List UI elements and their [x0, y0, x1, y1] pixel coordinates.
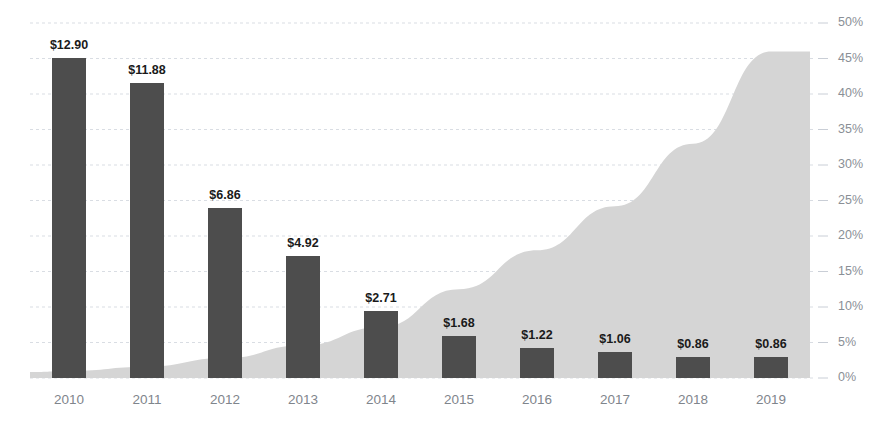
bar	[676, 357, 710, 378]
y-axis-tick-label: 40%	[838, 86, 863, 100]
y-axis-tick-label: 30%	[838, 157, 863, 171]
bar	[598, 352, 632, 378]
x-axis-tick-label: 2015	[444, 392, 474, 407]
chart-container: $12.90$11.88$6.86$4.92$2.71$1.68$1.22$1.…	[0, 0, 876, 436]
y-axis-tick-label: 35%	[838, 122, 863, 136]
y-axis-tick-label: 5%	[838, 335, 856, 349]
x-axis-tick-label: 2013	[288, 392, 318, 407]
bar-value-label: $0.86	[677, 337, 708, 351]
bar	[208, 208, 242, 378]
combo-chart: $12.90$11.88$6.86$4.92$2.71$1.68$1.22$1.…	[0, 0, 876, 436]
bar	[520, 348, 554, 378]
y-axis-tick-label: 10%	[838, 299, 863, 313]
bar-value-label: $1.06	[599, 332, 630, 346]
bar	[442, 336, 476, 378]
y-axis-tick-label: 50%	[838, 15, 863, 29]
y-axis-tick-label: 20%	[838, 228, 863, 242]
y-axis-tick-label: 45%	[838, 51, 863, 65]
bar	[364, 311, 398, 378]
bar	[130, 83, 164, 378]
y-axis-tick-label: 25%	[838, 193, 863, 207]
x-axis-tick-label: 2016	[522, 392, 552, 407]
x-axis-tick-label: 2018	[678, 392, 708, 407]
bar	[52, 58, 86, 378]
bar-value-label: $11.88	[128, 63, 166, 77]
right-axis-tick-labels-group: 0%5%10%15%20%25%30%35%40%45%50%	[838, 15, 863, 384]
bar-value-label: $12.90	[50, 38, 88, 52]
bar	[754, 357, 788, 378]
x-axis-tick-label: 2017	[600, 392, 630, 407]
y-axis-tick-label: 15%	[838, 264, 863, 278]
bar	[286, 256, 320, 378]
bar-value-label: $4.92	[287, 236, 318, 250]
bar-value-label: $1.22	[521, 328, 552, 342]
x-axis-tick-label: 2014	[366, 392, 397, 407]
x-axis-tick-label: 2011	[132, 392, 161, 407]
y-axis-tick-label: 0%	[838, 370, 856, 384]
x-axis-tick-label: 2019	[756, 392, 786, 407]
bar-value-label: $2.71	[365, 291, 396, 305]
x-axis-tick-labels-group: 2010201120122013201420152016201720182019	[54, 392, 786, 407]
bar-value-label: $6.86	[209, 188, 240, 202]
x-axis-tick-label: 2012	[210, 392, 240, 407]
x-axis-tick-label: 2010	[54, 392, 84, 407]
bar-value-label: $0.86	[755, 337, 786, 351]
bar-value-label: $1.68	[443, 316, 474, 330]
